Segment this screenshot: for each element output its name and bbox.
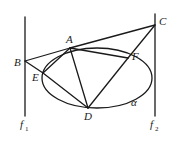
- segment-FD: [88, 58, 128, 108]
- label-D: D: [83, 110, 92, 122]
- label-F: F: [131, 50, 139, 62]
- label-C: C: [159, 15, 167, 27]
- label-B: B: [14, 56, 21, 68]
- geometry-diagram: A B C D E F α f 1 f 2: [0, 0, 177, 145]
- label-A: A: [65, 33, 73, 45]
- label-E: E: [31, 71, 39, 83]
- segment-AD: [70, 48, 88, 108]
- segment-AC: [70, 25, 155, 48]
- label-f1-sub: 1: [25, 125, 29, 133]
- label-f2-sub: 2: [155, 125, 159, 133]
- label-alpha: α: [131, 96, 137, 108]
- segment-AF: [70, 48, 128, 58]
